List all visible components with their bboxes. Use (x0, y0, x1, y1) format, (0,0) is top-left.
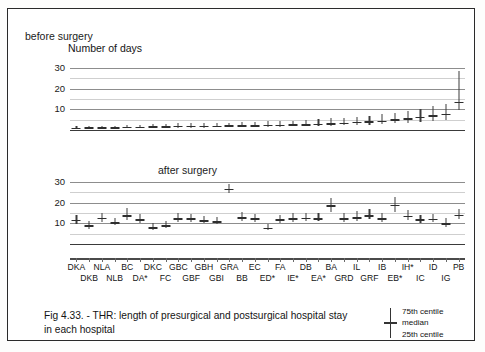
x-axis-label-GBI: GBI (209, 274, 224, 283)
x-axis-label-IB: IB (378, 263, 386, 272)
x-axis-label-IL: IL (353, 263, 360, 272)
x-axis-label-FC: FC (160, 274, 171, 283)
gridline-20 (70, 89, 465, 90)
legend-labels: 75th centile median 25th centile (402, 306, 443, 340)
x-axis-label-NLA: NLA (93, 263, 110, 272)
x-axis-tick (344, 258, 345, 262)
x-axis-tick (166, 258, 167, 262)
x-axis-tick (242, 258, 243, 262)
plot-area-before-surgery: 102030 (70, 62, 465, 130)
x-axis-label-EDstar: ED* (260, 274, 275, 283)
gridline-30 (70, 182, 465, 183)
x-axis-tick (395, 258, 396, 262)
x-axis-label-GRD: GRD (334, 274, 353, 283)
x-axis-label-FA: FA (275, 263, 286, 272)
x-axis-label-DKA: DKA (68, 263, 86, 272)
caption-line-2: in each hospital (44, 323, 374, 337)
x-axis-tick (446, 258, 447, 262)
gridline-15 (70, 213, 465, 214)
x-axis-tick (318, 258, 319, 262)
panel-baseline (70, 244, 465, 245)
x-axis-label-BC: BC (121, 263, 133, 272)
x-axis-label-EAstar: EA* (311, 274, 326, 283)
x-axis-label-GBH: GBH (194, 263, 213, 272)
y-tick-label-10: 10 (54, 219, 65, 229)
x-axis-tick (89, 258, 90, 262)
x-axis-tick (115, 258, 116, 262)
figure-page: Number of days before surgery 102030 aft… (0, 0, 485, 352)
x-axis-label-IC: IC (416, 274, 425, 283)
x-axis-label-DKC: DKC (144, 263, 162, 272)
x-axis-label-GRF: GRF (360, 274, 378, 283)
y-tick-label-20: 20 (54, 84, 65, 94)
x-axis-label-DB: DB (300, 263, 312, 272)
x-axis-label-EC: EC (249, 263, 261, 272)
x-axis-tick (140, 258, 141, 262)
x-axis-label-PB: PB (453, 263, 464, 272)
x-axis-label-ID: ID (429, 263, 438, 272)
y-tick-label-20: 20 (54, 198, 65, 208)
x-axis-label-IEstar: IE* (287, 274, 298, 283)
x-axis-label-NLB: NLB (106, 274, 123, 283)
legend-item-median: median (402, 317, 443, 328)
panel-baseline (70, 130, 465, 131)
x-axis-label-BB: BB (236, 274, 247, 283)
x-axis-tick (191, 258, 192, 262)
x-axis-tick (420, 258, 421, 262)
x-axis-tick (268, 258, 269, 262)
x-axis-label-GRA: GRA (220, 263, 239, 272)
figure-frame: Number of days before surgery 102030 aft… (7, 8, 475, 341)
plot-area-after-surgery: 102030 (70, 176, 465, 244)
legend-marker-icon (384, 308, 397, 338)
chart-panel-before-surgery: 102030 (70, 62, 465, 130)
x-axis-tick (369, 258, 370, 262)
x-axis-tick (217, 258, 218, 262)
gridline-25 (70, 192, 465, 193)
panel-a-label: before surgery (25, 30, 93, 42)
gridline-20 (70, 203, 465, 204)
x-axis-label-DKB: DKB (80, 274, 98, 283)
y-tick-label-30: 30 (54, 63, 65, 73)
gridline-25 (70, 78, 465, 79)
y-tick-label-10: 10 (54, 105, 65, 115)
panel-b-label: after surgery (158, 164, 217, 176)
y-tick-label-30: 30 (54, 177, 65, 187)
legend-item-p25: 25th centile (402, 329, 443, 340)
gridline-15 (70, 99, 465, 100)
x-axis (70, 258, 465, 260)
x-axis-label-DAstar: DA* (132, 274, 147, 283)
gridline-10 (70, 109, 465, 110)
figure-caption: Fig 4.33. - THR: length of presurgical a… (44, 309, 374, 337)
x-axis-label-GBF: GBF (182, 274, 200, 283)
x-axis-label-IHstar: IH* (402, 263, 414, 272)
gridline-5 (70, 234, 465, 235)
legend: 75th centile median 25th centile (384, 306, 443, 340)
chart-panel-after-surgery: 102030 (70, 176, 465, 244)
axis-title: Number of days (68, 42, 142, 54)
x-axis-label-BA: BA (325, 263, 336, 272)
x-axis-tick (293, 258, 294, 262)
gridline-30 (70, 68, 465, 69)
x-axis-label-IG: IG (441, 274, 450, 283)
legend-item-p75: 75th centile (402, 306, 443, 317)
x-axis-label-EBstar: EB* (388, 274, 403, 283)
caption-line-1: Fig 4.33. - THR: length of presurgical a… (44, 309, 374, 323)
x-axis-label-GBC: GBC (169, 263, 188, 272)
